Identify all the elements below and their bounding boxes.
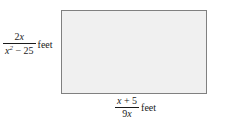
rectangle-shape [61, 10, 207, 94]
width-denominator: 9x [120, 108, 133, 119]
width-numerator: x + 5 [115, 96, 139, 107]
height-unit-label: feet [38, 39, 53, 50]
geometry-figure: 2x x2 − 25 feet x + 5 9x feet [0, 0, 230, 128]
height-denominator: x2 − 25 [3, 44, 36, 56]
width-dimension-label: x + 5 9x feet [115, 96, 156, 119]
height-fraction: 2x x2 − 25 [3, 32, 36, 56]
width-unit-label: feet [141, 102, 156, 113]
height-dimension-label: 2x x2 − 25 feet [3, 32, 53, 56]
width-fraction: x + 5 9x [115, 96, 139, 119]
height-numerator: 2x [13, 32, 26, 43]
